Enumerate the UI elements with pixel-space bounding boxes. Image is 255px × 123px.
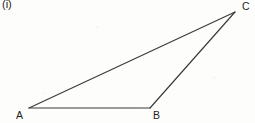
vertex-label-b: B [153, 110, 160, 121]
vertex-label-c: C [242, 1, 250, 12]
triangle-diagram [0, 0, 255, 123]
part-label: (i) [2, 0, 12, 10]
edge-bc [150, 12, 235, 108]
figure-container: (i) A B C [0, 0, 255, 123]
vertex-label-a: A [16, 110, 23, 121]
edge-ca [29, 12, 235, 108]
